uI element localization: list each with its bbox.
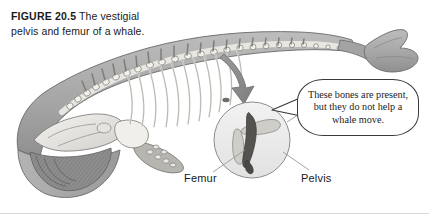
whale-scapula [115, 120, 149, 148]
vestigial-pelvis-on-body [222, 98, 229, 102]
label-pelvis: Pelvis [301, 172, 332, 184]
whale-tail-fluke [364, 30, 418, 72]
curved-arrow-to-inset [220, 54, 254, 104]
inset-magnifier [214, 102, 290, 178]
label-femur: Femur [184, 172, 217, 184]
callout-bubble: These bones are present, but they do not… [297, 79, 419, 136]
figure-container: FIGURE 20.5 The vestigial pelvis and fem… [0, 0, 429, 214]
leader-line-pelvis [283, 152, 309, 170]
callout-text: These bones are present, but they do not… [306, 89, 410, 127]
